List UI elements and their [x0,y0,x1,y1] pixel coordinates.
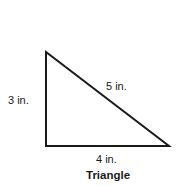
hypotenuse-label: 5 in. [106,80,127,92]
triangle-figure [0,0,184,186]
triangle-shape [46,52,169,146]
left-side-label: 3 in. [8,94,29,106]
diagram-title: Triangle [86,169,130,182]
bottom-side-label: 4 in. [96,153,117,165]
